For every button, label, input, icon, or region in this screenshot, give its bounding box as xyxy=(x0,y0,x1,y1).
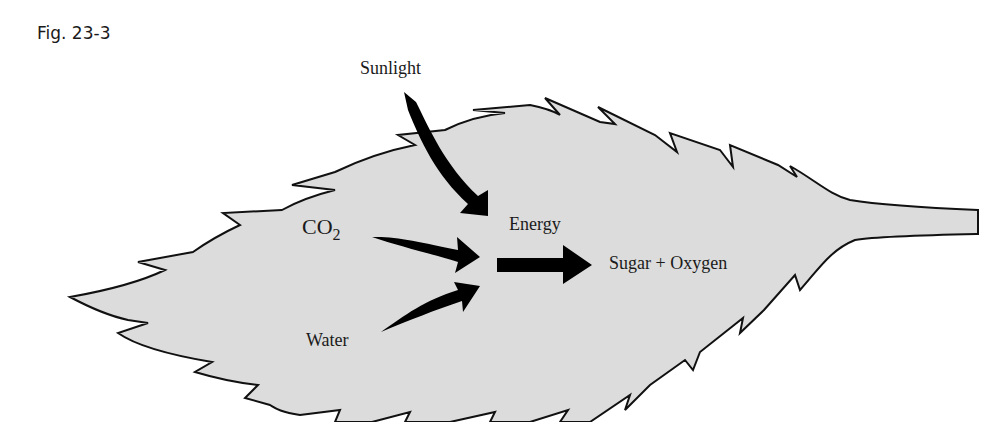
water-label: Water xyxy=(306,330,349,350)
sunlight-label: Sunlight xyxy=(360,58,421,78)
energy-label: Energy xyxy=(509,214,561,234)
products-label: Sugar + Oxygen xyxy=(609,253,727,273)
photosynthesis-diagram: Sunlight CO2 Water Energy Sugar + Oxygen xyxy=(0,0,999,422)
